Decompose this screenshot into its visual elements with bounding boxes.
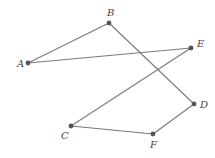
edge-a-e (28, 48, 191, 63)
edge-b-d (109, 23, 194, 104)
vertex-d (192, 102, 197, 107)
vertex-a (26, 61, 31, 66)
vertex-label-f: F (149, 139, 158, 150)
edge-e-c (71, 48, 191, 126)
vertices-group (26, 21, 197, 137)
vertex-label-e: E (196, 38, 205, 49)
vertex-c (69, 124, 74, 129)
vertex-label-b: B (106, 7, 114, 18)
edges-group (28, 23, 194, 134)
labels-group: ABEDCF (16, 7, 208, 150)
vertex-label-c: C (61, 130, 69, 141)
vertex-e (189, 46, 194, 51)
graph-diagram: ABEDCF (0, 0, 215, 158)
vertex-label-d: D (199, 99, 208, 110)
vertex-label-a: A (16, 58, 24, 69)
edge-f-d (153, 104, 194, 134)
vertex-b (107, 21, 112, 26)
edge-c-f (71, 126, 153, 134)
vertex-f (151, 132, 156, 137)
